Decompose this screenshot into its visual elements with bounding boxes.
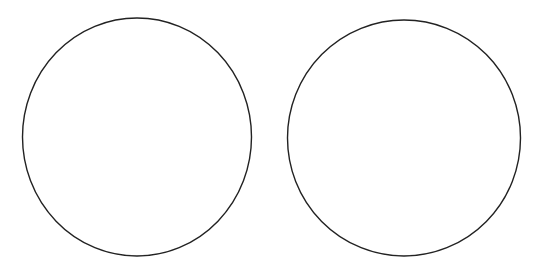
left-circle: [23, 18, 252, 256]
diagram-canvas: [0, 0, 538, 272]
two-circles-diagram: [0, 0, 538, 272]
right-circle: [288, 20, 521, 256]
